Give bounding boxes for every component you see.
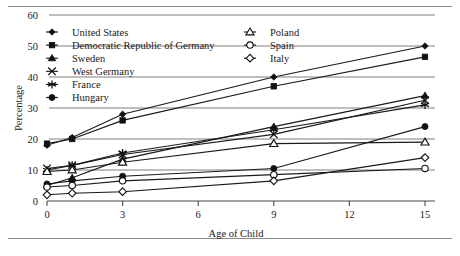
legend-label: Poland [270, 27, 300, 38]
data-point [422, 165, 428, 171]
y-tick-label-60: 60 [28, 10, 39, 21]
x-tick-label-15: 15 [420, 209, 431, 220]
data-point [421, 154, 429, 162]
data-point [69, 136, 74, 141]
y-tick-label-20: 20 [28, 134, 39, 145]
data-point [271, 165, 277, 171]
legend-label: Democratic Republic of Germany [72, 40, 215, 51]
legend-label: Sweden [72, 53, 106, 64]
data-point [270, 177, 278, 185]
legend-marker-filled-circle [49, 94, 55, 100]
series-hungary [44, 124, 428, 187]
legend: United StatesDemocratic Republic of Germ… [46, 27, 300, 104]
series-line [47, 142, 425, 171]
data-point [68, 189, 76, 197]
y-axis-title: Percentage [13, 85, 24, 131]
data-point [271, 84, 276, 89]
data-point [44, 141, 49, 146]
y-tick-label-0: 0 [33, 196, 38, 207]
series-sweden [43, 92, 428, 188]
legend-label: Hungary [72, 92, 109, 103]
data-point [44, 184, 50, 190]
line-chart-plot: 010203040506003691215Age of ChildPercent… [0, 0, 460, 256]
legend-marker-open-diamond [246, 54, 254, 62]
data-point [271, 74, 277, 80]
data-point [119, 178, 125, 184]
y-tick-label-50: 50 [28, 41, 39, 52]
series-poland [43, 138, 429, 174]
legend-label: Italy [270, 53, 290, 64]
x-axis-title: Age of Child [209, 228, 265, 239]
series-line [47, 96, 425, 186]
legend-marker-open-circle [247, 42, 253, 48]
data-point [119, 188, 127, 196]
legend-label: Spain [270, 40, 295, 51]
legend-label: United States [72, 27, 128, 38]
y-tick-label-10: 10 [28, 165, 39, 176]
x-tick-label-3: 3 [120, 209, 125, 220]
x-tick-label-9: 9 [271, 209, 276, 220]
legend-marker-filled-diamond [49, 29, 55, 35]
x-tick-label-6: 6 [196, 209, 201, 220]
data-point [43, 191, 51, 199]
legend-label: France [72, 79, 101, 90]
data-point [422, 124, 428, 130]
data-point [422, 54, 427, 59]
y-tick-label-40: 40 [28, 72, 39, 83]
y-tick-label-30: 30 [28, 103, 39, 114]
x-tick-label-12: 12 [344, 209, 355, 220]
data-point [69, 182, 75, 188]
x-tick-label-0: 0 [44, 209, 49, 220]
data-point [119, 111, 125, 117]
data-point [422, 43, 428, 49]
legend-marker-filled-square [49, 42, 54, 47]
chart-figure: 010203040506003691215Age of ChildPercent… [0, 0, 460, 256]
data-point [120, 118, 125, 123]
series-line [47, 105, 425, 170]
legend-label: West Germany [72, 66, 135, 77]
